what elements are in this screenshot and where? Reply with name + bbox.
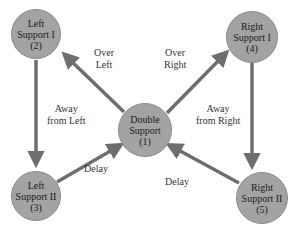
edge-label-line: from Right [196, 115, 240, 127]
edge-label-delay-left: Delay [84, 163, 108, 175]
node-left-support-1: Left Support I (2) [11, 9, 61, 59]
node-number: (3) [30, 202, 42, 213]
edge-label-over-right: Over Right [164, 47, 186, 71]
node-label: Support I [233, 32, 271, 43]
edge-label-line: Right [164, 59, 186, 71]
node-label: Support I [17, 29, 55, 40]
edge-label-over-left: Over Left [94, 47, 114, 71]
node-double-support: Double Support (1) [118, 103, 172, 157]
edge-label-line: Delay [84, 163, 108, 175]
edge-label-line: Delay [165, 176, 189, 188]
edge-label-delay-right: Delay [165, 176, 189, 188]
edge-label-line: from Left [47, 115, 86, 127]
node-right-support-2: Right Support II (5) [236, 172, 288, 224]
node-label: Left [28, 18, 45, 29]
edge-label-line: Left [94, 59, 114, 71]
node-label: Double [130, 114, 159, 125]
edge-label-line: Away [196, 103, 240, 115]
node-label: Support II [16, 191, 57, 202]
edge-label-away-from-right: Away from Right [196, 103, 240, 127]
edge-label-line: Over [94, 47, 114, 59]
node-right-support-1: Right Support I (4) [226, 11, 278, 63]
edge-label-away-from-left: Away from Left [47, 103, 86, 127]
node-number: (4) [246, 43, 258, 54]
node-label: Left [28, 180, 45, 191]
edge-label-line: Over [164, 47, 186, 59]
edge-label-line: Away [47, 103, 86, 115]
node-number: (2) [30, 40, 42, 51]
node-label: Support II [242, 193, 283, 204]
node-label: Right [251, 182, 273, 193]
node-left-support-2: Left Support II (3) [11, 171, 61, 221]
node-label: Support [129, 125, 161, 136]
node-number: (1) [139, 136, 151, 147]
node-label: Right [241, 21, 263, 32]
node-number: (5) [256, 204, 268, 215]
